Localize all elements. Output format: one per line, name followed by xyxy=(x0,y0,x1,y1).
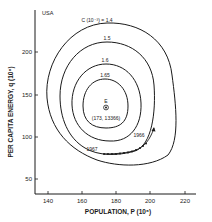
contour-1-4 xyxy=(47,23,176,165)
svg-text:1.65: 1.65 xyxy=(100,72,110,78)
point-e-label: E xyxy=(104,98,108,104)
point-e-coords: (173, 13366) xyxy=(92,115,121,121)
svg-text:160: 160 xyxy=(77,198,88,204)
trajectory-arrow-icon xyxy=(152,127,156,132)
x-axis-label: POPULATION, P (10⁶) xyxy=(85,208,151,216)
svg-text:C (10⁻³) = 1.4: C (10⁻³) = 1.4 xyxy=(81,17,112,23)
trajectory-end-label: 1966 xyxy=(133,132,144,138)
svg-text:180: 180 xyxy=(111,198,122,204)
svg-text:100: 100 xyxy=(22,134,33,140)
x-tick-labels: 140 160 180 200 220 xyxy=(43,198,191,204)
svg-text:150: 150 xyxy=(22,92,33,98)
svg-text:1.5: 1.5 xyxy=(104,35,111,41)
svg-text:50: 50 xyxy=(25,176,32,182)
svg-text:220: 220 xyxy=(180,198,191,204)
y-tick-labels: 200 150 100 50 xyxy=(22,49,33,182)
svg-text:140: 140 xyxy=(43,198,54,204)
trajectory-start-label: 1967 xyxy=(86,146,97,152)
chart: 200 150 100 50 140 160 180 200 220 POPUL… xyxy=(0,0,212,222)
svg-text:200: 200 xyxy=(145,198,156,204)
chart-title: USA xyxy=(42,10,54,16)
svg-text:200: 200 xyxy=(22,49,33,55)
point-e-marker xyxy=(104,105,109,110)
y-axis-label: PER CAPITA ENERGY, q (10⁶) xyxy=(7,66,15,157)
svg-text:1.6: 1.6 xyxy=(102,57,109,63)
